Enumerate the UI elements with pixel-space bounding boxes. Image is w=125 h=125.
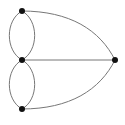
graph-diagram xyxy=(0,0,125,125)
node-top xyxy=(19,8,25,14)
node-bottom xyxy=(19,106,25,112)
node-right xyxy=(112,57,118,63)
node-middle xyxy=(19,57,25,63)
